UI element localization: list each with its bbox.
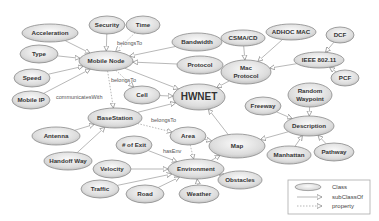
class-node-antenna[interactable]: Antenna [32, 127, 80, 145]
class-node-speed[interactable]: Speed [14, 69, 50, 87]
class-node-area[interactable]: Area [170, 127, 206, 145]
edge-subclassof-pcf-to-ieee [330, 67, 337, 72]
legend-subclass-label: subClassOf [332, 194, 363, 200]
class-label: Manhattan [274, 151, 305, 158]
class-node-acceleration[interactable]: Acceleration [22, 24, 78, 42]
edge-property-basestation-to-area [138, 124, 172, 133]
class-node-hwnet[interactable]: HWNET [173, 84, 225, 110]
class-label: Mobile IP [17, 96, 44, 103]
class-label: Road [137, 190, 153, 197]
class-label: Protocol [187, 61, 212, 68]
class-label: Time [136, 21, 151, 28]
legend-property-label: property [332, 203, 354, 209]
legend-class-swatch [295, 183, 321, 190]
edge-subclassof-ieee-to-mac_protocol [270, 64, 297, 68]
class-node-manhattan[interactable]: Manhattan [267, 146, 311, 164]
edge-label: communicatesWith [56, 94, 102, 100]
class-label: DCF [334, 31, 347, 38]
edge-subclassof-speed-to-mobile_node [48, 66, 83, 74]
class-label: Mobile Node [88, 57, 125, 64]
class-label: Protocol [233, 72, 258, 79]
edge-subclassof-environment-to-map [211, 156, 220, 161]
class-node-protocol[interactable]: Protocol [177, 56, 223, 74]
class-label: Mac [240, 64, 253, 71]
class-node-description[interactable]: Description [284, 116, 334, 136]
class-node-num-exit[interactable]: # of Exit [116, 136, 152, 154]
class-label: IEEE 802.11 [302, 56, 337, 63]
class-node-mobile-node[interactable]: Mobile Node [79, 51, 133, 71]
class-label: Handoff Way [49, 157, 87, 164]
class-node-time[interactable]: Time [126, 16, 160, 34]
class-node-traffic[interactable]: Traffic [81, 180, 119, 198]
diagram-svg: belongsTobelongsTocommunicatesWithbelong… [0, 0, 379, 221]
edge-subclassof-security-to-mobile_node [106, 34, 107, 51]
class-node-freeway[interactable]: Freeway [245, 97, 281, 115]
edge-subclassof-freeway-to-description [277, 112, 293, 119]
edge-label: belongsTo [151, 117, 176, 123]
class-label: Bandwidth [181, 38, 213, 45]
class-node-map[interactable]: Map [209, 134, 265, 158]
class-node-mobile-ip[interactable]: Mobile IP [12, 91, 50, 109]
edge-subclassof-dcf-to-ieee [326, 42, 334, 52]
class-node-obstacles[interactable]: Obstacles [218, 171, 262, 189]
class-label: Pathway [321, 148, 347, 155]
class-label: Cell [136, 91, 148, 98]
class-node-mac-protocol[interactable]: MacProtocol [221, 60, 271, 84]
edge-subclassof-bandwidth-to-mobile_node [130, 47, 176, 57]
class-node-weather[interactable]: Weather [179, 185, 219, 203]
class-label: Type [32, 50, 47, 57]
class-node-type[interactable]: Type [20, 45, 58, 63]
class-node-adhoc-mac[interactable]: ADHOC MAC [266, 24, 316, 40]
edge-subclassof-csma_cd-to-mac_protocol [244, 46, 245, 60]
class-label: Acceleration [31, 29, 68, 36]
class-label: Waypoint [296, 95, 324, 102]
class-node-velocity[interactable]: Velocity [93, 160, 131, 178]
edge-subclassof-pathway-to-description [318, 135, 326, 143]
edge-subclassof-adhoc_mac-to-mac_protocol [258, 40, 283, 62]
class-label: # of Exit [122, 141, 146, 148]
class-label: Security [95, 21, 120, 28]
class-label: ADHOC MAC [272, 28, 311, 35]
class-label: Antenna [44, 132, 69, 139]
class-label: Weather [187, 190, 212, 197]
class-label: Velocity [100, 165, 124, 172]
class-label: Freeway [251, 102, 276, 109]
legend-class-label: Class [332, 184, 347, 190]
edge-subclassof-cell-to-hwnet [160, 96, 173, 97]
class-label: Environment [177, 165, 215, 172]
class-label: PCF [339, 74, 352, 81]
class-node-random-waypoint[interactable]: RandomWaypoint [288, 83, 332, 107]
edge-subclassof-mac_protocol-to-hwnet [217, 81, 230, 88]
edge-subclassof-manhattan-to-description [295, 136, 302, 147]
edge-subclassof-antenna-to-basestation [75, 124, 95, 130]
edge-property-area-to-environment [190, 145, 193, 159]
edge-subclassof-road-to-environment [158, 177, 179, 187]
class-node-road[interactable]: Road [126, 185, 164, 203]
class-node-handoff-way[interactable]: Handoff Way [44, 152, 92, 170]
class-node-dcf[interactable]: DCF [326, 27, 354, 43]
class-label: HWNET [181, 91, 218, 102]
edge-label: belongsTo [111, 77, 136, 83]
edge-subclassof-weather-to-environment [197, 179, 198, 185]
class-node-environment[interactable]: Environment [168, 159, 224, 179]
class-node-security[interactable]: Security [89, 16, 125, 34]
class-label: Area [181, 132, 195, 139]
nodes-layer: AccelerationSecurityTimeBandwidthTypeMob… [12, 16, 359, 203]
class-label: Obstacles [225, 176, 255, 183]
edge-subclassof-description-to-map [261, 132, 289, 140]
class-node-ieee[interactable]: IEEE 802.11 [294, 52, 344, 68]
class-node-cell[interactable]: Cell [124, 86, 160, 104]
class-node-csma-cd[interactable]: CSMA/CD [221, 30, 265, 46]
ontology-diagram: belongsTobelongsTocommunicatesWithbelong… [0, 0, 379, 221]
class-node-basestation[interactable]: BaseStation [88, 108, 142, 128]
legend: Class subClassOf property [288, 180, 370, 214]
class-label: Speed [23, 74, 42, 81]
class-label: BaseStation [97, 114, 133, 121]
class-label: Random [298, 87, 323, 94]
class-node-pcf[interactable]: PCF [331, 70, 359, 86]
edge-label: belongsTo [117, 40, 142, 46]
edge-subclassof-map-to-hwnet [208, 109, 228, 135]
class-label: Map [231, 142, 244, 149]
class-node-pathway[interactable]: Pathway [314, 143, 354, 161]
class-node-bandwidth[interactable]: Bandwidth [172, 33, 222, 51]
